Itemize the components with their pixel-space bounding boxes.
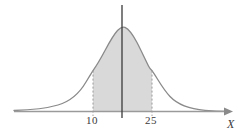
tick-label-upper: 25: [145, 114, 157, 126]
normal-distribution-figure: 10 25 X: [0, 0, 247, 137]
x-axis-label: X: [227, 117, 234, 132]
distribution-plot-svg: [0, 0, 247, 137]
tick-label-lower: 10: [86, 114, 98, 126]
x-axis-arrowhead: [224, 108, 233, 116]
